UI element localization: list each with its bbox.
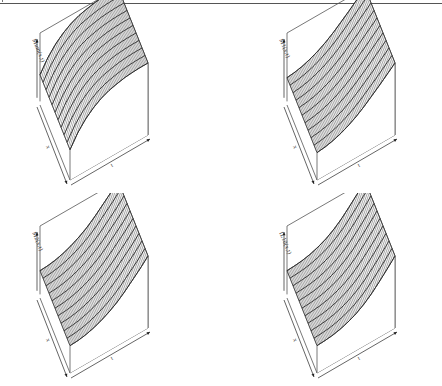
surface-plot-m1: M1(x,t) x t (221, 0, 442, 193)
surface-plot-mum: Mum(x,t) x t (0, 0, 221, 193)
surface-plot-canvas (221, 0, 442, 193)
surface-plot-m2: M2(x,t) x t (0, 193, 221, 386)
surface-plot-il10: IL10(x,t) x t (221, 193, 442, 386)
surface-plot-canvas (221, 193, 442, 386)
